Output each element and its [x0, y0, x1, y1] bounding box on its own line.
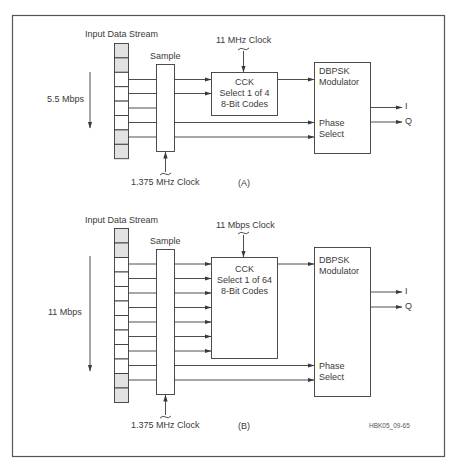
diagram-canvas — [0, 0, 452, 466]
output-q-b: Q — [405, 301, 412, 312]
modulator-text-a: DBPSK Modulator — [319, 66, 359, 88]
output-q-a: Q — [405, 116, 412, 127]
cck-title: CCK — [211, 77, 278, 88]
phase-select-text-b: Phase Select — [319, 361, 345, 383]
sample-clock-label-b: 1.375 MHz Clock — [131, 420, 200, 431]
cck-codes: 8-Bit Codes — [211, 99, 278, 110]
input-stream-label-a: Input Data Stream — [85, 29, 158, 40]
input-stream-label-b: Input Data Stream — [85, 215, 158, 226]
phase-line2: Select — [319, 129, 345, 140]
sample-label-a: Sample — [150, 51, 181, 62]
rate-label-a: 5.5 Mbps — [47, 94, 84, 105]
cck-select: Select 1 of 64 — [211, 275, 278, 286]
cck-text-a: CCK Select 1 of 4 8-Bit Codes — [211, 77, 278, 110]
sample-clock-label-a: 1.375 MHz Clock — [131, 177, 200, 188]
sample-box-a — [157, 65, 175, 152]
phase-line1: Phase — [319, 118, 345, 129]
phase-line2: Select — [319, 372, 345, 383]
modulator-title: DBPSK — [319, 66, 359, 77]
caption-b: (B) — [238, 421, 250, 432]
sample-label-b: Sample — [150, 236, 181, 247]
modulator-text-b: DBPSK Modulator — [319, 255, 359, 277]
caption-a: (A) — [238, 178, 250, 189]
sample-box-b — [157, 250, 175, 395]
modulator-title: DBPSK — [319, 255, 359, 266]
cck-select: Select 1 of 4 — [211, 88, 278, 99]
output-i-a: I — [405, 101, 408, 112]
phase-select-text-a: Phase Select — [319, 118, 345, 140]
output-i-b: I — [405, 286, 408, 297]
rate-label-b: 11 Mbps — [48, 307, 82, 318]
phase-line1: Phase — [319, 361, 345, 372]
cck-codes: 8-Bit Codes — [211, 286, 278, 297]
data-stream-a — [115, 44, 129, 159]
cck-text-b: CCK Select 1 of 64 8-Bit Codes — [211, 264, 278, 297]
modulator-subtitle: Modulator — [319, 266, 359, 277]
data-stream-b — [115, 229, 129, 403]
modulator-subtitle: Modulator — [319, 77, 359, 88]
cck-title: CCK — [211, 264, 278, 275]
cck-clock-label-b: 11 Mbps Clock — [216, 220, 275, 231]
cck-clock-label-a: 11 MHz Clock — [216, 35, 271, 46]
figure-id: HBK05_09-65 — [369, 420, 410, 431]
